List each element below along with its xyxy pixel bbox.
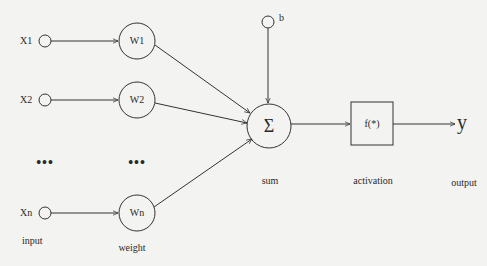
- weight-ellipsis: •••: [128, 156, 146, 170]
- output-symbol: y: [457, 112, 467, 132]
- input-node-xn: [39, 207, 51, 219]
- weight-label-wn: Wn: [130, 208, 144, 218]
- input-node-x2: [39, 94, 51, 106]
- activation-function-label: f(*): [365, 119, 380, 129]
- weight-label-w2: W2: [130, 95, 144, 105]
- perceptron-diagram: [0, 0, 487, 266]
- input-label-xn: Xn: [20, 208, 32, 218]
- caption-sum: sum: [262, 176, 279, 186]
- bias-node: [262, 16, 274, 28]
- input-label-x1: X1: [20, 36, 32, 46]
- bias-label: b: [279, 13, 284, 23]
- caption-activation: activation: [353, 176, 392, 186]
- input-label-x2: X2: [20, 95, 32, 105]
- input-ellipsis: •••: [36, 156, 54, 170]
- caption-input: input: [22, 236, 43, 246]
- caption-output: output: [451, 178, 477, 188]
- sum-symbol: Σ: [264, 117, 274, 135]
- caption-weight: weight: [118, 243, 145, 253]
- weight-label-w1: W1: [130, 36, 144, 46]
- input-node-x1: [39, 35, 51, 47]
